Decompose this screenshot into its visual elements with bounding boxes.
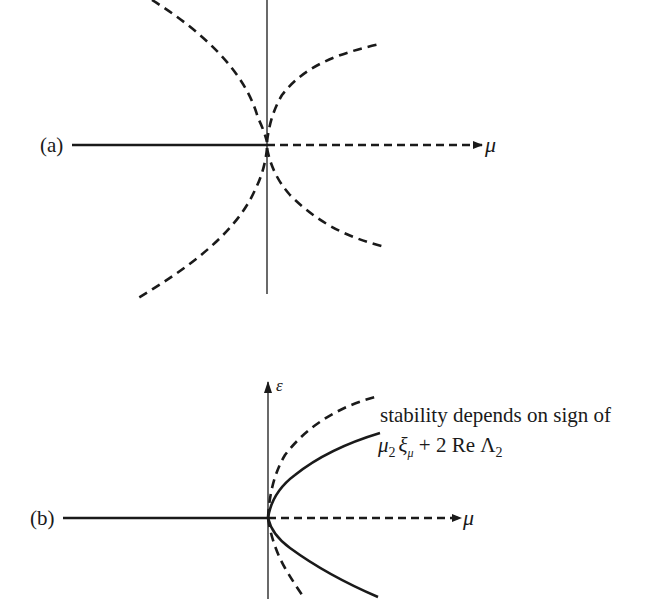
- panel-a-upper-left-branch: [152, 0, 267, 142]
- panel-b-mu-label: μ: [462, 505, 474, 530]
- panel-a-lower-left-branch: [135, 148, 267, 300]
- mu-subscript: 2: [389, 445, 396, 460]
- panel-a-mu-label: μ: [484, 132, 496, 157]
- xi-symbol: ξ: [399, 433, 408, 457]
- stability-note-line2: μ2ξμ + 2 Re Λ2: [377, 433, 502, 460]
- lambda-subscript: 2: [495, 445, 502, 460]
- panel-a-upper-right-branch: [267, 44, 380, 142]
- panel-b: ε μ (b) stability depends on sign of μ2ξ…: [30, 376, 611, 599]
- xi-subscript: μ: [407, 446, 414, 460]
- lambda-symbol: Λ: [480, 433, 496, 457]
- panel-b-upper-inner-branch: [268, 433, 380, 518]
- panel-b-label: (b): [30, 506, 55, 530]
- panel-b-epsilon-label: ε: [276, 376, 283, 395]
- stability-note-line1: stability depends on sign of: [380, 403, 611, 427]
- panel-a-lower-right-branch: [267, 148, 385, 247]
- bifurcation-diagram: (a) μ ε μ (b) stability depends on sign …: [0, 0, 669, 599]
- plus-two-re: + 2 Re: [414, 433, 481, 457]
- panel-b-lower-inner-branch: [268, 518, 378, 597]
- panel-a: (a) μ: [40, 0, 496, 300]
- panel-a-label: (a): [40, 133, 63, 157]
- mu-symbol: μ: [377, 433, 389, 457]
